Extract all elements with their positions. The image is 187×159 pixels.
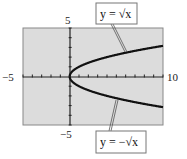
y-min-label: −5 (60, 128, 72, 140)
label-sqrt-x: y = √x (100, 7, 131, 21)
label-neg-sqrt-x: y = −√x (100, 135, 138, 149)
x-max-label: 10 (167, 71, 179, 83)
y-max-label: 5 (65, 14, 71, 26)
x-min-label: −5 (2, 71, 14, 83)
chart: 5 −5 −5 10 y = √x y = −√x (0, 0, 187, 159)
